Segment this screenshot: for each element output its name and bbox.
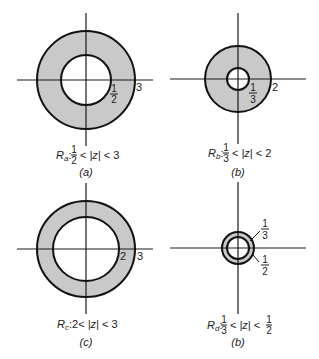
panel-c: 2 3 Rc:2< |z| < 3 (c)	[17, 183, 153, 348]
caption-b-den: 3	[223, 153, 229, 164]
inner-radius-den-d: 3	[262, 230, 268, 241]
leader-line-inner-d	[250, 231, 260, 241]
caption-d-den: 3	[221, 325, 227, 336]
caption-a-den: 2	[71, 155, 77, 166]
outer-radius-den-d: 2	[262, 266, 268, 277]
caption-a: Ra:	[56, 149, 71, 163]
outer-radius-label-a: 3	[136, 81, 142, 93]
caption-a-num: 1	[71, 144, 77, 155]
roc-annulus-figure: 1 2 3 Ra: 1 2 < |z| < 3 (a) 1 3 2 Rb: 1 …	[0, 0, 319, 359]
caption-a-rest: < |z| < 3	[80, 149, 119, 161]
outer-radius-num-d: 1	[262, 254, 268, 265]
inner-radius-num-a: 1	[111, 83, 117, 94]
inner-radius-num-d: 1	[262, 218, 268, 229]
caption-b-num: 1	[223, 142, 229, 153]
panel-a: 1 2 3 Ra: 1 2 < |z| < 3 (a)	[17, 13, 153, 178]
caption-b: Rb:	[208, 147, 223, 161]
caption-d: Rd:	[207, 319, 222, 333]
caption-c: Rc:2< |z| < 3	[57, 318, 118, 332]
inner-radius-num-b: 1	[250, 82, 256, 93]
sublabel-b: (b)	[231, 166, 245, 178]
inner-radius-label-c: 2	[120, 250, 126, 262]
sublabel-a: (a)	[79, 166, 93, 178]
panel-d: 1 3 1 2 Rd: 1 3 < |z| < 1 2 (b)	[170, 182, 306, 348]
inner-radius-den-b: 3	[250, 94, 256, 105]
caption-d-num2: 1	[266, 314, 272, 325]
outer-radius-label-b: 2	[272, 81, 278, 93]
caption-d-num: 1	[221, 314, 227, 325]
outer-radius-label-c: 3	[137, 250, 143, 262]
sublabel-d: (b)	[231, 336, 245, 348]
leader-line-outer-d	[253, 255, 259, 262]
caption-d-rest: < |z| <	[230, 319, 260, 331]
panel-b: 1 3 2 Rb: 1 3 < |z| < 2 (b)	[170, 13, 306, 178]
caption-d-den2: 2	[266, 325, 272, 336]
inner-radius-den-a: 2	[111, 94, 117, 105]
caption-b-rest: < |z| < 2	[232, 147, 271, 159]
sublabel-c: (c)	[80, 336, 93, 348]
